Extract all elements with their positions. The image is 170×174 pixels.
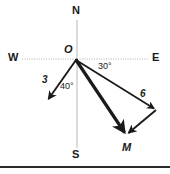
bottom-rule bbox=[0, 166, 170, 168]
label-magnitude-left: 3 bbox=[42, 75, 48, 85]
label-east: E bbox=[152, 52, 159, 63]
label-point-origin: O bbox=[64, 44, 73, 55]
vector-diagram-canvas bbox=[0, 0, 170, 174]
origin-dot bbox=[75, 58, 78, 61]
label-south: S bbox=[72, 149, 79, 160]
vector-left-3 bbox=[49, 60, 77, 99]
label-north: N bbox=[72, 5, 80, 16]
label-angle-right: 30° bbox=[98, 62, 112, 71]
label-point-m: M bbox=[122, 142, 131, 153]
label-west: W bbox=[8, 52, 18, 63]
label-magnitude-right: 6 bbox=[140, 89, 146, 99]
label-angle-left: 40° bbox=[60, 82, 74, 91]
vector-right-6 bbox=[129, 110, 157, 133]
vector-right-leg-o bbox=[76, 60, 154, 109]
